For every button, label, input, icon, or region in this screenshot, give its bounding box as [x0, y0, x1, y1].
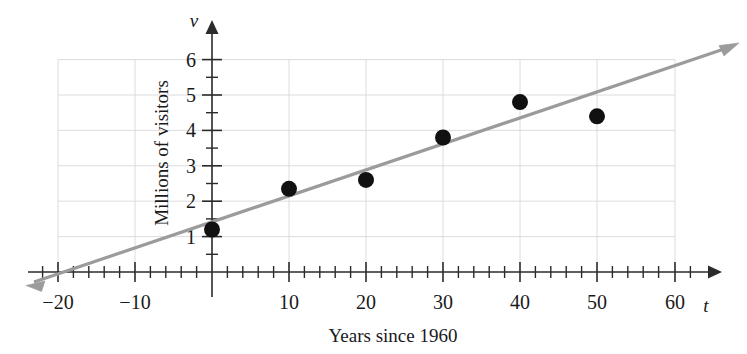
regression-line [34, 47, 730, 282]
trend-line-group [26, 43, 739, 292]
y-axis-arrowhead [206, 20, 219, 34]
x-tick-label-10: 10 [279, 291, 299, 313]
y-axis: 1 2 3 4 5 6 v Millions of visitors [151, 10, 222, 297]
x-axis: −20 −10 10 20 30 40 50 60 t Years since … [28, 262, 722, 346]
x-axis-title: Years since 1960 [329, 325, 458, 346]
y-axis-variable-label: v [190, 10, 199, 31]
x-axis-variable-label: t [703, 295, 709, 316]
data-point [435, 130, 451, 146]
y-tick-label-6: 6 [186, 49, 196, 71]
data-point [589, 108, 605, 124]
scatter-plot-figure: −20 −10 10 20 30 40 50 60 t Years since … [0, 0, 747, 354]
x-tick-label-40: 40 [510, 291, 530, 313]
trend-line-arrowhead-right [719, 43, 739, 56]
data-point [512, 94, 528, 110]
y-tick-label-2: 2 [186, 190, 196, 212]
x-tick-label-60: 60 [665, 291, 685, 313]
y-axis-title: Millions of visitors [151, 80, 172, 226]
x-tick-label-20: 20 [356, 291, 376, 313]
data-point [281, 181, 297, 197]
plot-canvas: −20 −10 10 20 30 40 50 60 t Years since … [0, 0, 747, 354]
y-tick-label-4: 4 [186, 119, 196, 141]
x-tick-label--10: −10 [119, 291, 150, 313]
y-tick-label-5: 5 [186, 84, 196, 106]
x-tick-label-30: 30 [433, 291, 453, 313]
data-point [358, 172, 374, 188]
x-tick-label-50: 50 [587, 291, 607, 313]
x-axis-arrowhead [708, 266, 722, 279]
data-point [204, 222, 220, 238]
y-tick-label-3: 3 [186, 155, 196, 177]
x-tick-label--20: −20 [42, 291, 73, 313]
